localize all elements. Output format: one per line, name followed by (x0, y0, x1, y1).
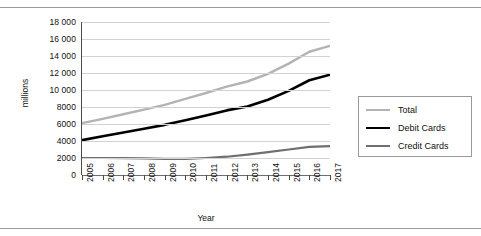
x-tick-mark (309, 175, 310, 180)
x-tick-mark (165, 175, 166, 180)
x-tick-mark (82, 175, 83, 180)
x-tick-mark (103, 175, 104, 180)
series-lines (82, 22, 330, 175)
legend-label-total: Total (398, 105, 417, 115)
x-tick-label: 2006 (107, 163, 116, 182)
y-tick-label: 14 000 (49, 52, 76, 61)
x-tick-label: 2005 (86, 163, 95, 182)
legend-label-credit-cards: Credit Cards (398, 141, 449, 151)
x-tick-mark (330, 175, 331, 180)
x-tick-mark (227, 175, 228, 180)
x-tick-label: 2008 (148, 163, 157, 182)
legend-item-total: Total (366, 104, 417, 116)
legend-swatch-debit-cards (366, 127, 390, 130)
legend-swatch-credit-cards (366, 145, 390, 147)
gridline (82, 56, 330, 57)
x-tick-mark (185, 175, 186, 180)
y-axis-line (81, 22, 82, 175)
y-axis-title: millions (20, 63, 30, 123)
x-tick-label: 2017 (334, 163, 343, 182)
x-tick-label: 2014 (272, 163, 281, 182)
y-tick-label: 4000 (57, 137, 76, 146)
y-tick-label: 16 000 (49, 35, 76, 44)
x-axis-title: Year (82, 213, 330, 223)
gridline (82, 73, 330, 74)
gridline (82, 141, 330, 142)
legend-swatch-total (366, 109, 390, 111)
chart-legend: Total Debit Cards Credit Cards (358, 96, 472, 157)
x-tick-mark (289, 175, 290, 180)
gridline (82, 39, 330, 40)
x-tick-mark (206, 175, 207, 180)
legend-label-debit-cards: Debit Cards (398, 123, 446, 133)
x-tick-label: 2015 (293, 163, 302, 182)
y-axis-tick-labels: 18 00016 00014 00012 00010 0008000600040… (30, 22, 76, 175)
gridline (82, 90, 330, 91)
y-tick-label: 12 000 (49, 69, 76, 78)
x-tick-label: 2012 (231, 163, 240, 182)
x-tick-mark (144, 175, 145, 180)
x-tick-label: 2010 (189, 163, 198, 182)
legend-item-debit-cards: Debit Cards (366, 122, 446, 134)
y-tick-label: 10 000 (49, 86, 76, 95)
x-tick-label: 2009 (169, 163, 178, 182)
y-tick-label: 2000 (57, 154, 76, 163)
y-tick-label: 18 000 (49, 18, 76, 27)
y-tick-label: 0 (71, 171, 76, 180)
x-tick-label: 2011 (210, 164, 219, 182)
legend-item-credit-cards: Credit Cards (366, 140, 449, 152)
y-tick-label: 6000 (57, 120, 76, 129)
page-rule-top (0, 7, 481, 8)
x-tick-mark (123, 175, 124, 180)
x-tick-mark (247, 175, 248, 180)
gridline (82, 124, 330, 125)
line-chart-figure: millions 18 00016 00014 00012 00010 0008… (0, 10, 481, 225)
y-tick-label: 8000 (57, 103, 76, 112)
gridline (82, 22, 330, 23)
page-rule-bottom (0, 228, 481, 229)
x-tick-label: 2013 (251, 163, 260, 182)
x-tick-label: 2007 (127, 163, 136, 182)
series-line (82, 46, 330, 123)
gridline (82, 107, 330, 108)
gridline (82, 158, 330, 159)
x-tick-mark (268, 175, 269, 180)
series-line (82, 146, 330, 159)
plot-area (82, 22, 330, 175)
x-tick-label: 2016 (313, 163, 322, 182)
